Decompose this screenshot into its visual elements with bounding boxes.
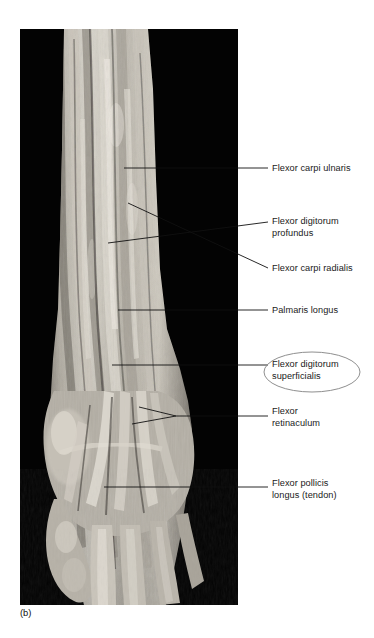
label-flexor-digitorum-profundus: Flexor digitorum profundus <box>272 216 339 239</box>
figure-caption: (b) <box>20 607 31 618</box>
digits <box>20 469 238 605</box>
label-palmaris-longus: Palmaris longus <box>272 305 338 317</box>
label-flexor-digitorum-superficialis: Flexor digitorum superficialis <box>272 359 339 382</box>
label-flexor-pollicis-longus-tendon: Flexor pollicis longus (tendon) <box>272 478 337 501</box>
specimen-photo-canvas <box>20 29 238 605</box>
label-flexor-retinaculum: Flexor retinaculum <box>272 406 320 429</box>
label-flexor-carpi-ulnaris: Flexor carpi ulnaris <box>272 163 351 175</box>
specimen-photograph <box>20 29 238 605</box>
label-flexor-carpi-radialis: Flexor carpi radialis <box>272 263 353 275</box>
anatomy-figure: Flexor carpi ulnaris Flexor digitorum pr… <box>0 0 374 638</box>
